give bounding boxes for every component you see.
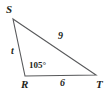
geometry-figure: S R T 9 t 6 105°	[0, 0, 110, 94]
side-label-st: 9	[58, 31, 63, 41]
vertex-label-s: S	[6, 4, 12, 15]
side-label-rt: 6	[60, 78, 65, 88]
vertex-label-t: T	[96, 79, 103, 90]
angle-label-r: 105°	[29, 61, 46, 70]
triangle-path	[13, 19, 96, 76]
vertex-label-r: R	[21, 79, 28, 90]
side-label-sr: t	[11, 46, 14, 56]
triangle-outline	[0, 0, 110, 94]
